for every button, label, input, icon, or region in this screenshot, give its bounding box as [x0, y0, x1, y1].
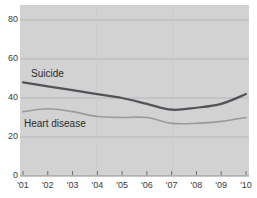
chart-canvas	[0, 0, 257, 198]
y-tick-label-20: 20	[0, 132, 18, 141]
x-tick-marks	[23, 171, 246, 175]
x-tick-label-03: '03	[67, 180, 79, 190]
y-tick-label-80: 80	[0, 15, 18, 24]
line-chart: 80 60 40 20 0 '01 '02 '03 '04 '05 '06 '0…	[0, 0, 257, 198]
series-line-suicide	[23, 82, 246, 109]
y-tick-label-60: 60	[0, 54, 18, 63]
x-tick-label-09: '09	[215, 180, 227, 190]
y-tick-label-0: 0	[0, 171, 18, 180]
series-label-heart-disease: Heart disease	[24, 119, 86, 129]
x-tick-label-02: '02	[42, 180, 54, 190]
x-tick-label-08: '08	[191, 180, 203, 190]
x-tick-label-05: '05	[116, 180, 128, 190]
y-tick-label-40: 40	[0, 93, 18, 102]
x-tick-label-07: '07	[166, 180, 178, 190]
y-axis-labels: 80 60 40 20 0	[0, 0, 18, 198]
gridlines	[20, 5, 249, 176]
x-tick-label-01: '01	[17, 180, 29, 190]
x-axis-labels: '01 '02 '03 '04 '05 '06 '07 '08 '09 '10	[20, 180, 249, 196]
x-tick-label-06: '06	[141, 180, 153, 190]
x-tick-label-04: '04	[91, 180, 103, 190]
series-label-suicide: Suicide	[31, 69, 64, 79]
x-tick-label-10: '10	[240, 180, 252, 190]
